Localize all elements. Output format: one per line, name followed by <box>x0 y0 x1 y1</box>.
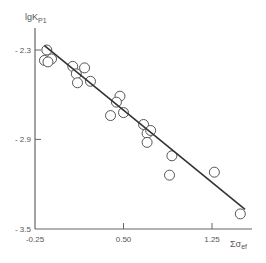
y-tick-label: - 2.3 <box>15 46 32 55</box>
data-point <box>165 170 175 180</box>
y-axis-title: lgKP1 <box>25 12 47 24</box>
axis-ticks: -0.250.501.25- 2.3- 2.9- 3.5 <box>15 46 220 244</box>
data-point <box>235 209 245 219</box>
x-tick-label: -0.25 <box>26 235 45 244</box>
x-tick-label: 1.25 <box>204 235 220 244</box>
x-axis-title: Σσef <box>230 239 247 250</box>
data-point <box>142 137 152 147</box>
data-point <box>72 78 82 88</box>
regression-line <box>44 46 245 210</box>
y-tick-label: - 3.5 <box>15 225 32 234</box>
y-tick-label: - 2.9 <box>15 135 32 144</box>
data-points <box>39 45 245 219</box>
scatter-chart: -0.250.501.25- 2.3- 2.9- 3.5 lgKP1 Σσef <box>0 0 266 263</box>
x-tick-label: 0.50 <box>116 235 132 244</box>
data-point <box>43 57 53 67</box>
data-point <box>209 167 219 177</box>
data-point <box>106 111 116 121</box>
